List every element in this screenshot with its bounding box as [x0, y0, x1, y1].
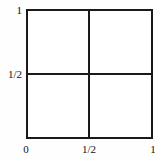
- horizontal-midline: [26, 73, 153, 75]
- y-axis-tick-label-half: 1/2: [0, 68, 22, 80]
- x-axis-tick-label-0: 0: [14, 143, 38, 155]
- y-axis-tick-label-1: 1: [0, 4, 22, 16]
- x-axis-tick-label-1: 1: [142, 143, 162, 155]
- x-axis-tick-label-half: 1/2: [77, 143, 101, 155]
- figure-canvas: 1 1/2 0 1/2 1: [0, 0, 162, 160]
